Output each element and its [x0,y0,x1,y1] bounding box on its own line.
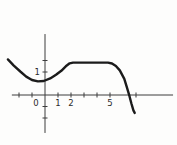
function-plot: 01251 [0,0,177,145]
x-tick-label: 0 [33,98,38,108]
x-tick-label: 2 [68,98,73,108]
y-tick-label: 1 [35,67,40,77]
x-tick-label: 5 [107,98,112,108]
x-tick-label: 1 [55,98,60,108]
graph-figure: 01251 [0,0,177,145]
